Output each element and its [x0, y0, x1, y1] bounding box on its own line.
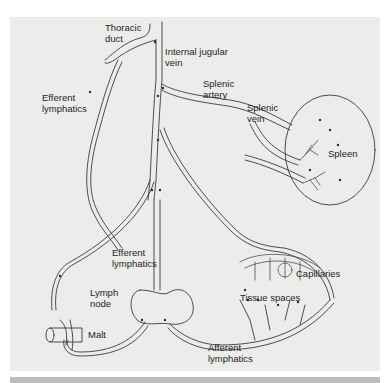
spleen-branches [300, 140, 325, 190]
label-thoracic-duct: Thoracic duct [105, 22, 141, 44]
splenic-vein [245, 122, 305, 183]
internal-jugular-vein [148, 22, 162, 200]
thoracic-duct [87, 24, 156, 250]
label-efferent-lymphatics-mid: Efferent lymphatics [112, 247, 157, 269]
label-splenic-vein: Splenic vein [247, 102, 278, 124]
label-afferent-lymphatics: Afferent lymphatics [208, 342, 253, 364]
efferent-lymphatics-mid-vessel [154, 200, 160, 290]
label-efferent-lymphatics-top: Efferent lymphatics [42, 92, 87, 114]
label-internal-jugular-vein: Internal jugular vein [165, 46, 228, 68]
label-tissue-spaces: Tissue spaces [240, 292, 300, 303]
label-malt: Malt [88, 329, 106, 340]
label-spleen: Spleen [328, 148, 358, 159]
label-capillaries: Capillaries [296, 268, 340, 279]
lymph-node-outline [131, 290, 193, 325]
label-lymph-node: Lymph node [90, 287, 118, 309]
label-splenic-artery: Splenic artery [203, 78, 234, 100]
